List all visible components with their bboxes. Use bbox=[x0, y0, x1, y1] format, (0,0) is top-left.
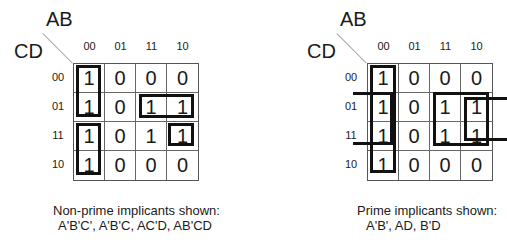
row-header: 01 bbox=[341, 100, 361, 112]
cell-01-01: 0 bbox=[399, 93, 430, 122]
wrap-line bbox=[464, 138, 507, 141]
col-header: 00 bbox=[74, 40, 105, 52]
row-header: 10 bbox=[341, 158, 361, 170]
col-header: 10 bbox=[167, 40, 198, 52]
cell-10-10: 0 bbox=[167, 151, 198, 180]
caption-terms: A'B', AD, B'D bbox=[366, 218, 441, 233]
cell-01-01: 0 bbox=[105, 93, 136, 122]
caption-title: Non-prime implicants shown: bbox=[53, 203, 220, 218]
cell-10-10: 0 bbox=[461, 151, 492, 180]
caption-terms: A'B'C', A'B'C, AC'D, AB'CD bbox=[58, 218, 212, 233]
col-header: 11 bbox=[430, 40, 461, 52]
row-header: 11 bbox=[48, 129, 68, 141]
cell-00-01: 0 bbox=[399, 64, 430, 93]
row-header: 10 bbox=[48, 158, 68, 170]
cell-00-11: 0 bbox=[136, 64, 167, 93]
implicant-loop-b-d-right bbox=[464, 97, 488, 141]
cell-11-11: 1 bbox=[136, 122, 167, 151]
wrap-line bbox=[353, 92, 393, 95]
row-header: 00 bbox=[48, 71, 68, 83]
wrap-line bbox=[464, 97, 507, 100]
col-header: 11 bbox=[136, 40, 167, 52]
implicant-loop-b-d-left bbox=[372, 92, 393, 145]
row-header: 11 bbox=[341, 129, 361, 141]
cell-00-10: 0 bbox=[167, 64, 198, 93]
col-header: 01 bbox=[399, 40, 430, 52]
cell-10-01: 0 bbox=[105, 151, 136, 180]
row-header: 00 bbox=[341, 71, 361, 83]
cd-variable-label: CD bbox=[14, 40, 43, 63]
cell-00-11: 0 bbox=[430, 64, 461, 93]
col-header: 01 bbox=[105, 40, 136, 52]
row-header: 01 bbox=[48, 100, 68, 112]
cell-10-11: 0 bbox=[136, 151, 167, 180]
wrap-line bbox=[353, 142, 393, 145]
cell-10-11: 0 bbox=[430, 151, 461, 180]
caption-title: Prime implicants shown: bbox=[357, 203, 497, 218]
implicant-loop-a-b-c bbox=[76, 123, 101, 175]
corner-diagonal bbox=[42, 33, 72, 63]
cell-00-01: 0 bbox=[105, 64, 136, 93]
col-header: 00 bbox=[368, 40, 399, 52]
ab-variable-label: AB bbox=[46, 8, 73, 31]
implicant-loop-ab-cd bbox=[168, 123, 194, 146]
cell-11-01: 0 bbox=[399, 122, 430, 151]
corner-diagonal bbox=[336, 33, 366, 63]
ab-variable-label: AB bbox=[340, 8, 367, 31]
cell-11-01: 0 bbox=[105, 122, 136, 151]
cell-10-01: 0 bbox=[399, 151, 430, 180]
right-kmap: AB CD 00 01 11 10 00 01 11 10 1 0 0 0 1 … bbox=[260, 0, 507, 243]
cell-00-10: 0 bbox=[461, 64, 492, 93]
implicant-loop-a-b-c- bbox=[76, 65, 101, 117]
cd-variable-label: CD bbox=[307, 40, 336, 63]
col-header: 10 bbox=[461, 40, 492, 52]
left-kmap: AB CD 00 01 11 10 00 01 11 10 1 0 0 0 1 … bbox=[0, 0, 250, 243]
implicant-loop-ac-d bbox=[139, 94, 194, 118]
